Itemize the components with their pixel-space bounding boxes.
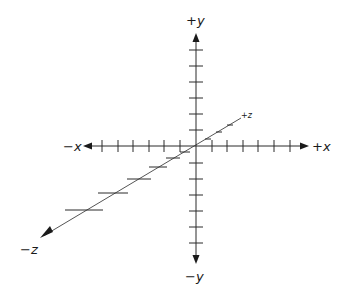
pos-y-label: +y [186,13,205,28]
pos-x-label: +x [312,139,331,154]
z-axis [40,118,241,238]
neg-y-label: −y [185,269,204,284]
neg-x-label: −x [63,139,82,154]
y-axis [189,33,203,264]
neg-z-arrowhead-icon [40,226,53,238]
3d-axes-diagram: +y −y +x −x +z −z [0,0,338,291]
neg-y-arrowhead-icon [193,255,200,264]
pos-x-arrowhead-icon [300,143,309,150]
neg-x-arrowhead-icon [83,143,92,150]
pos-z-label: +z [241,111,253,120]
neg-z-label: −z [20,242,39,257]
z-axis-line [44,118,241,236]
pos-y-arrowhead-icon [193,33,200,42]
